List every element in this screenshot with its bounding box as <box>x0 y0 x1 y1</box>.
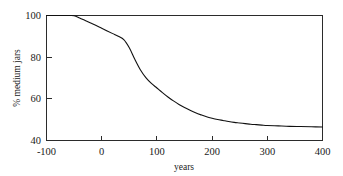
x-tick-label-0: 0 <box>99 146 104 157</box>
x-tick-label-neg100: -100 <box>37 146 56 157</box>
y-tick-label-80: 80 <box>31 52 42 63</box>
x-axis-title: years <box>174 162 194 172</box>
line-chart: 100 80 60 40 -100 0 100 200 300 400 year… <box>0 0 343 176</box>
x-tick-label-200: 200 <box>204 146 220 157</box>
chart-container: 100 80 60 40 -100 0 100 200 300 400 year… <box>0 0 343 176</box>
x-tick-label-400: 400 <box>315 146 331 157</box>
y-tick-label-40: 40 <box>31 135 42 146</box>
y-tick-label-60: 60 <box>31 93 42 104</box>
y-axis-title: % medium jars <box>12 49 22 107</box>
y-tick-label-100: 100 <box>25 10 41 21</box>
x-tick-label-300: 300 <box>259 146 275 157</box>
x-tick-label-100: 100 <box>149 146 165 157</box>
